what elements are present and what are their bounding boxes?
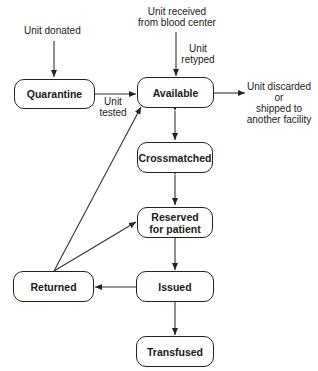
- node-available: Available: [137, 77, 214, 108]
- node-quarantine: Quarantine: [14, 79, 95, 109]
- node-crossmatched: Crossmatched: [137, 142, 213, 173]
- label-unit-received: Unit received from blood center: [137, 6, 217, 28]
- node-quarantine-label: Quarantine: [27, 88, 82, 100]
- label-discarded-line3: shipped to: [240, 103, 318, 114]
- node-available-label: Available: [153, 87, 199, 99]
- node-issued: Issued: [136, 271, 214, 302]
- edge-returned-reserved: [54, 222, 136, 271]
- label-unit-received-line2: from blood center: [137, 17, 217, 28]
- node-returned: Returned: [13, 271, 94, 302]
- label-discarded-line4: another facility: [240, 114, 318, 125]
- label-unit-tested-line2: tested: [97, 107, 129, 118]
- node-transfused-label: Transfused: [147, 346, 203, 358]
- node-crossmatched-label: Crossmatched: [139, 152, 212, 164]
- node-reserved-label: Reserved for patient: [149, 211, 200, 235]
- node-issued-label: Issued: [158, 281, 191, 293]
- label-discarded-line2: or: [240, 92, 318, 103]
- label-unit-retyped: Unit retyped: [181, 43, 215, 65]
- label-unit-tested: Unit tested: [97, 96, 129, 118]
- edges-layer: [0, 0, 318, 371]
- label-unit-retyped-line2: retyped: [181, 54, 215, 65]
- label-unit-tested-line1: Unit: [97, 96, 129, 107]
- label-discarded-line1: Unit discarded: [240, 81, 318, 92]
- node-transfused: Transfused: [136, 336, 214, 367]
- label-unit-received-line1: Unit received: [137, 6, 217, 17]
- node-returned-label: Returned: [30, 281, 76, 293]
- edge-returned-available: [54, 107, 141, 271]
- node-reserved: Reserved for patient: [137, 207, 213, 238]
- label-unit-discarded: Unit discarded or shipped to another fac…: [240, 81, 318, 125]
- label-unit-donated: Unit donated: [24, 25, 81, 36]
- label-unit-retyped-line1: Unit: [181, 43, 215, 54]
